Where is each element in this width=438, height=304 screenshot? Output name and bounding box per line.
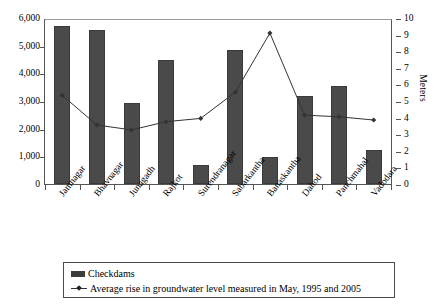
- y-axis-left-tick-label: 4,000: [19, 70, 40, 80]
- y-axis-left: 01,0002,0003,0004,0005,0006,000: [0, 19, 40, 185]
- legend-label-checkdams: Checkdams: [88, 268, 135, 279]
- y-axis-right-tick: [396, 102, 401, 103]
- y-axis-right-tick-label: 7: [404, 64, 409, 74]
- y-axis-right-tick: [396, 135, 401, 136]
- y-axis-right-tick-label: 0: [404, 180, 409, 190]
- line-marker-rajkot: [164, 119, 169, 124]
- line-marker-banaskantha: [267, 31, 272, 36]
- line-series-path: [62, 33, 373, 130]
- legend-label-groundwater-rise: Average rise in groundwater level measur…: [90, 283, 361, 294]
- y-axis-right-tick-label: 5: [404, 97, 409, 107]
- chart-page: 01,0002,0003,0004,0005,0006,000 Jamnagar…: [0, 0, 438, 304]
- y-axis-right-tick-label: 8: [404, 47, 409, 57]
- legend-line-marker-icon: [71, 285, 87, 293]
- x-axis-tick: [391, 185, 392, 190]
- line-marker-vadodara: [371, 117, 376, 122]
- y-axis-right-tick-label: 2: [404, 147, 409, 157]
- y-axis-left-tick-label: 6,000: [19, 14, 40, 24]
- x-axis-tick: [218, 185, 219, 190]
- y-axis-right-tick: [396, 52, 401, 53]
- y-axis-right-tick: [396, 36, 401, 37]
- y-axis-right-tick-label: 3: [404, 130, 409, 140]
- y-axis-left-tick-label: 3,000: [19, 97, 40, 107]
- x-axis-tick: [114, 185, 115, 190]
- x-axis-tick: [322, 185, 323, 190]
- y-axis-right-tick: [396, 85, 401, 86]
- legend-bar-swatch-icon: [71, 271, 85, 277]
- line-marker-junagadh: [129, 127, 134, 132]
- y-axis-right-title: Meters: [418, 74, 428, 102]
- y-axis-right-tick: [396, 185, 401, 186]
- chart-legend: Checkdams Average rise in groundwater le…: [63, 262, 395, 298]
- x-axis-tick: [80, 185, 81, 190]
- legend-item-groundwater-rise: Average rise in groundwater level measur…: [71, 281, 394, 296]
- y-axis-right: 012345678910: [396, 19, 418, 185]
- y-axis-right-tick: [396, 69, 401, 70]
- line-marker-panchmahal: [337, 114, 342, 119]
- y-axis-right-tick: [396, 119, 401, 120]
- line-series-layer: [45, 20, 391, 184]
- line-marker-dahod: [302, 113, 307, 118]
- y-axis-right-tick-label: 6: [404, 81, 409, 91]
- y-axis-right-tick-label: 9: [404, 31, 409, 41]
- y-axis-right-tick: [396, 152, 401, 153]
- x-axis-tick: [287, 185, 288, 190]
- y-axis-left-tick-label: 0: [35, 180, 40, 190]
- x-axis-tick: [253, 185, 254, 190]
- y-axis-left-tick-label: 1,000: [19, 153, 40, 163]
- plot-area: [44, 19, 392, 185]
- y-axis-left-tick-label: 2,000: [19, 125, 40, 135]
- x-axis-tick: [183, 185, 184, 190]
- y-axis-right-tick: [396, 19, 401, 20]
- y-axis-right-tick-label: 10: [404, 14, 414, 24]
- y-axis-right-tick: [396, 168, 401, 169]
- x-axis-tick: [45, 185, 46, 190]
- y-axis-right-tick-label: 4: [404, 114, 409, 124]
- y-axis-left-tick-label: 5,000: [19, 42, 40, 52]
- legend-item-checkdams: Checkdams: [71, 266, 394, 281]
- y-axis-right-tick-label: 1: [404, 164, 409, 174]
- x-axis-tick: [356, 185, 357, 190]
- x-axis-tick: [149, 185, 150, 190]
